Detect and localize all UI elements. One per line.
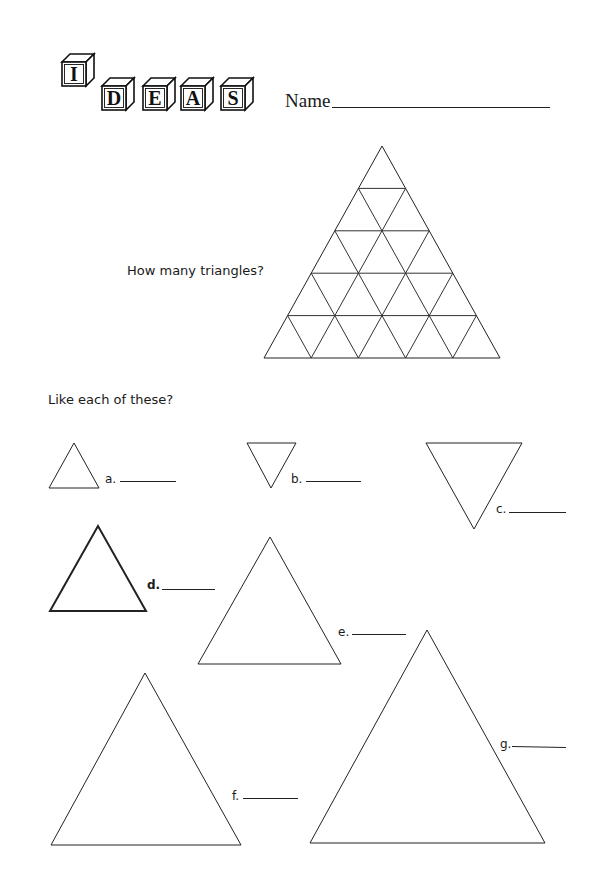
answer-label-c: c. xyxy=(496,502,506,516)
exercise-prompt: Like each of these? xyxy=(48,392,173,407)
triangle-d xyxy=(50,526,146,611)
grid-diagonal-line xyxy=(335,231,406,358)
worksheet: IDEAS Name How many triangles? Like each… xyxy=(0,0,592,885)
answer-field-c[interactable] xyxy=(509,512,566,513)
name-label: Name xyxy=(285,90,330,112)
grid-diagonal-line xyxy=(453,316,477,358)
grid-diagonal-line xyxy=(288,316,312,358)
triangle-e xyxy=(198,537,341,664)
answer-field-f[interactable] xyxy=(243,798,298,799)
answer-field-e[interactable] xyxy=(352,634,406,635)
logo-letter: I xyxy=(70,63,78,85)
logo-letter: S xyxy=(227,87,238,109)
triangle-b xyxy=(247,443,296,488)
answer-label-f: f. xyxy=(232,789,239,803)
answer-label-d: d. xyxy=(147,578,160,592)
logo-block-e: E xyxy=(143,78,175,110)
logo-block-s: S xyxy=(221,78,253,110)
answer-label-a: a. xyxy=(105,472,116,486)
worksheet-graphics: IDEAS xyxy=(0,0,592,885)
logo-letter: E xyxy=(148,87,161,109)
logo-block-i: I xyxy=(62,54,94,86)
answer-field-b[interactable] xyxy=(306,481,361,482)
puzzle-question: How many triangles? xyxy=(127,263,264,278)
exercise-triangles xyxy=(49,443,545,845)
grid-diagonal-line xyxy=(358,231,429,358)
logo-letter: A xyxy=(186,87,201,109)
triangle-f xyxy=(51,673,241,845)
triangle-a xyxy=(49,443,99,488)
logo-block-d: D xyxy=(102,78,134,110)
name-field[interactable] xyxy=(332,107,550,108)
answer-field-a[interactable] xyxy=(120,481,176,482)
ideas-logo: IDEAS xyxy=(62,54,253,110)
grid-outline xyxy=(264,146,500,358)
triangle-grid-puzzle xyxy=(264,146,500,358)
triangle-c xyxy=(426,443,522,529)
answer-label-g: g. xyxy=(500,737,511,751)
answer-label-e: e. xyxy=(338,625,349,639)
logo-letter: D xyxy=(107,87,121,109)
logo-block-a: A xyxy=(181,78,213,110)
answer-label-b: b. xyxy=(291,472,302,486)
answer-field-d[interactable] xyxy=(162,589,215,590)
